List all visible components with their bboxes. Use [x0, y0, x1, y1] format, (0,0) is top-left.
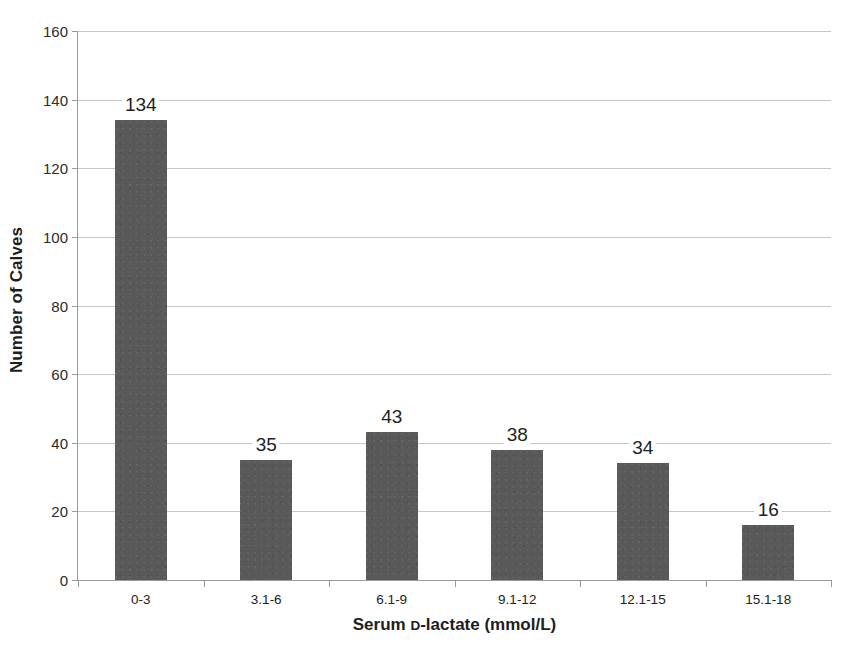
bar-value-label: 35: [253, 435, 280, 454]
bar[interactable]: [617, 463, 669, 580]
x-axis-title-suffix: -lactate (mmol/L): [420, 615, 556, 634]
x-axis-tick: [78, 580, 79, 587]
y-axis-tick-label: 80: [51, 297, 68, 314]
bar-slot: 34: [580, 31, 706, 580]
y-axis-tick-label: 100: [43, 228, 68, 245]
bar[interactable]: [742, 525, 794, 580]
x-axis-tick-label: 6.1-9: [376, 592, 407, 607]
x-axis-tick: [329, 580, 330, 587]
bars-layer: 1343543383416: [78, 31, 831, 580]
x-axis-tick: [580, 580, 581, 587]
x-axis-tick-label: 3.1-6: [251, 592, 282, 607]
x-axis-tick-label: 12.1-15: [620, 592, 666, 607]
x-axis-tick: [204, 580, 205, 587]
bar[interactable]: [491, 450, 543, 580]
x-axis-tick-label: 15.1-18: [745, 592, 791, 607]
x-axis-tick: [831, 580, 832, 587]
x-axis-tick-label: 9.1-12: [498, 592, 536, 607]
bar-value-label: 43: [378, 407, 405, 426]
bar-slot: 134: [78, 31, 204, 580]
y-axis-tick-label: 20: [51, 503, 68, 520]
y-axis-tick-label: 40: [51, 434, 68, 451]
y-axis-tick-label: 140: [43, 91, 68, 108]
x-axis-title-smallcap: D: [410, 618, 420, 633]
bar-slot: 16: [706, 31, 832, 580]
x-axis-tick: [455, 580, 456, 587]
bar-slot: 43: [329, 31, 455, 580]
y-axis-tick-label: 0: [60, 572, 68, 589]
bar-slot: 35: [204, 31, 330, 580]
bar-value-label: 34: [629, 438, 656, 457]
bar[interactable]: [366, 432, 418, 580]
y-axis-title-text: Number of Calves: [7, 227, 27, 373]
x-axis-title-prefix: Serum: [353, 615, 411, 634]
x-axis-title: Serum D-lactate (mmol/L): [78, 615, 831, 635]
y-axis-tick-label: 60: [51, 366, 68, 383]
bar-chart-figure: Number of Calves 020406080100120140160 1…: [0, 0, 843, 656]
y-axis-title: Number of Calves: [0, 0, 34, 600]
bar-value-label: 38: [504, 425, 531, 444]
y-axis-tick-label: 120: [43, 160, 68, 177]
plot-area: 020406080100120140160 1343543383416 0-33…: [78, 31, 831, 580]
bar[interactable]: [240, 460, 292, 580]
x-axis-tick-label: 0-3: [131, 592, 151, 607]
bar-slot: 38: [455, 31, 581, 580]
bar-value-label: 134: [122, 95, 160, 114]
x-axis-tick: [706, 580, 707, 587]
bar-value-label: 16: [755, 500, 782, 519]
bar[interactable]: [115, 120, 167, 580]
y-axis-tick-label: 160: [43, 23, 68, 40]
